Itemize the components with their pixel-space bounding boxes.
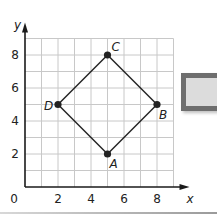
edge-CD <box>58 55 108 105</box>
axes: yx <box>13 18 195 207</box>
y-tick-label: 6 <box>11 81 19 95</box>
vertices: ABCD <box>44 40 167 171</box>
x-axis-arrow-icon <box>180 184 190 190</box>
point-D <box>54 101 61 108</box>
y-tick-label: 2 <box>11 147 19 161</box>
x-tick-label: 2 <box>54 192 62 206</box>
point-label-A: A <box>109 157 118 171</box>
edge-DA <box>58 105 108 155</box>
point-label-B: B <box>159 108 167 122</box>
x-tick-label: 8 <box>153 192 161 206</box>
edge-AB <box>108 105 158 155</box>
gray-frame-inner <box>186 78 217 106</box>
point-C <box>104 51 111 58</box>
x-tick-label: 6 <box>120 192 128 206</box>
y-tick-label: 4 <box>11 114 19 128</box>
y-axis-label: y <box>13 18 22 32</box>
y-axis-arrow-icon <box>22 23 28 33</box>
x-tick-label: 4 <box>87 192 95 206</box>
grid <box>25 39 174 188</box>
origin-label: 0 <box>10 192 18 206</box>
edge-BC <box>108 55 158 105</box>
x-axis-label: x <box>186 192 195 206</box>
y-tick-label: 8 <box>11 48 19 62</box>
gray-frame-box <box>181 73 217 111</box>
bottom-divider <box>0 212 217 214</box>
point-label-C: C <box>112 40 121 54</box>
point-label-D: D <box>44 99 53 113</box>
